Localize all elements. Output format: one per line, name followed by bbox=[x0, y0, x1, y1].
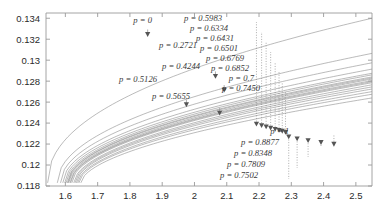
annotation-2: p = 0.4244 bbox=[161, 61, 201, 71]
marker-series-14 bbox=[295, 136, 300, 141]
annotation-12: p = 0.7450 bbox=[221, 83, 261, 93]
marker-series-7 bbox=[264, 125, 269, 130]
curve-series-9 bbox=[70, 81, 372, 183]
annotation-11: p = 0.7 bbox=[228, 73, 255, 83]
curve-series-7 bbox=[68, 78, 372, 183]
y-axis-tick-labels: 0.1180.120.1220.1240.1260.1280.130.1320.… bbox=[16, 13, 40, 192]
annotation-17: p = 1 bbox=[269, 126, 289, 136]
annotation-16: p = 0.8877 bbox=[240, 137, 280, 147]
annotation-5: p = 0.5983 bbox=[183, 13, 222, 23]
marker-series-0 bbox=[145, 32, 150, 37]
x-tick-label-6: 2.2 bbox=[252, 190, 265, 201]
y-tick-label-0: 0.118 bbox=[17, 180, 40, 191]
marker-series-17 bbox=[331, 142, 336, 147]
annotation-6: p = 0.6334 bbox=[189, 23, 229, 33]
x-tick-label-4: 2 bbox=[192, 190, 197, 201]
annotation-14: p = 0.7809 bbox=[226, 159, 266, 169]
x-tick-label-7: 2.3 bbox=[285, 190, 298, 201]
x-tick-label-9: 2.5 bbox=[349, 190, 362, 201]
marker-series-3 bbox=[184, 102, 189, 107]
marker-series-1 bbox=[213, 74, 218, 79]
x-tick-label-2: 1.8 bbox=[123, 190, 136, 201]
curve-series-14 bbox=[76, 89, 372, 183]
annotation-1: p = 0.2721 bbox=[158, 40, 197, 50]
curve-series-11 bbox=[72, 83, 372, 183]
y-tick-label-1: 0.12 bbox=[22, 159, 41, 170]
curve-series-3 bbox=[63, 69, 372, 183]
annotation-13: p = 0.7502 bbox=[219, 170, 259, 180]
curve-series-6 bbox=[67, 77, 372, 183]
marker-series-5 bbox=[254, 122, 259, 127]
annotation-10: p = 0.6852 bbox=[210, 63, 250, 73]
y-tick-label-5: 0.128 bbox=[16, 76, 40, 87]
y-tick-label-6: 0.13 bbox=[22, 55, 41, 66]
x-tick-label-0: 1.6 bbox=[59, 190, 72, 201]
annotation-7: p = 0.6431 bbox=[195, 33, 234, 43]
marker-series-16 bbox=[318, 140, 323, 145]
x-tick-label-3: 1.9 bbox=[156, 190, 169, 201]
annotation-0: p = 0 bbox=[132, 15, 152, 25]
x-tick-label-1: 1.7 bbox=[91, 190, 104, 201]
annotation-4: p = 0.5655 bbox=[151, 91, 191, 101]
y-tick-label-3: 0.124 bbox=[16, 117, 40, 128]
annotation-3: p = 0.5126 bbox=[118, 74, 158, 84]
marker-series-6 bbox=[259, 123, 264, 128]
annotation-9: p = 0.6769 bbox=[205, 53, 245, 63]
y-tick-label-7: 0.132 bbox=[16, 34, 40, 45]
marker-series-15 bbox=[305, 138, 310, 143]
curve-series-8 bbox=[69, 79, 372, 183]
annotation-8: p = 0.6501 bbox=[199, 43, 238, 53]
line-chart-plot: 1.61.71.81.922.12.22.32.42.5 0.1180.120.… bbox=[0, 0, 388, 219]
x-axis-tick-labels: 1.61.71.81.922.12.22.32.42.5 bbox=[59, 190, 363, 201]
y-tick-label-2: 0.122 bbox=[16, 138, 40, 149]
x-tick-label-8: 2.4 bbox=[317, 190, 330, 201]
x-tick-label-5: 2.1 bbox=[220, 190, 233, 201]
y-tick-label-8: 0.134 bbox=[16, 13, 40, 24]
y-tick-label-4: 0.126 bbox=[16, 97, 40, 108]
chart-figure: 1.61.71.81.922.12.22.32.42.5 0.1180.120.… bbox=[0, 0, 388, 219]
annotation-15: p = 0.8348 bbox=[233, 148, 273, 158]
